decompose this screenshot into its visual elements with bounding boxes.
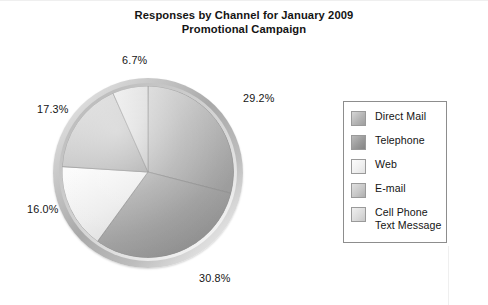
legend-swatch-direct-mail [351,111,366,126]
legend-label-telephone: Telephone [375,134,425,147]
edge-rule-top [0,0,488,1]
legend-item-telephone: Telephone [351,134,442,150]
chart-title: Responses by Channel for January 2009 Pr… [0,8,488,36]
legend-swatch-telephone [351,135,366,150]
legend-item-direct-mail: Direct Mail [351,110,442,126]
legend-label-direct-mail: Direct Mail [375,110,426,123]
legend-item-cell-phone: Cell Phone Text Message [351,206,442,231]
legend-item-list: Direct Mail Telephone Web E-mail Cell Ph… [351,110,442,231]
pie-chart-figure: Responses by Channel for January 2009 Pr… [0,0,488,305]
chart-title-line-2: Promotional Campaign [0,22,488,36]
pie-label-telephone: 30.8% [199,272,231,284]
legend-item-email: E-mail [351,182,442,198]
pie-label-direct-mail: 29.2% [243,92,275,104]
pie-label-cell-phone: 6.7% [122,54,147,66]
edge-rule-right [448,246,449,305]
pie-label-email: 17.3% [37,103,69,115]
legend-item-web: Web [351,158,442,174]
legend-label-web: Web [375,158,397,171]
pie-label-web: 16.0% [27,203,59,215]
legend-label-cell-phone: Cell Phone Text Message [375,206,442,231]
legend-swatch-cell-phone [351,207,366,222]
legend-label-email: E-mail [375,182,406,195]
pie-slices-container [62,86,234,258]
pie-plot-area [53,78,249,274]
chart-legend: Direct Mail Telephone Web E-mail Cell Ph… [343,101,447,243]
chart-title-line-1: Responses by Channel for January 2009 [0,8,488,22]
legend-swatch-web [351,159,366,174]
legend-swatch-email [351,183,366,198]
